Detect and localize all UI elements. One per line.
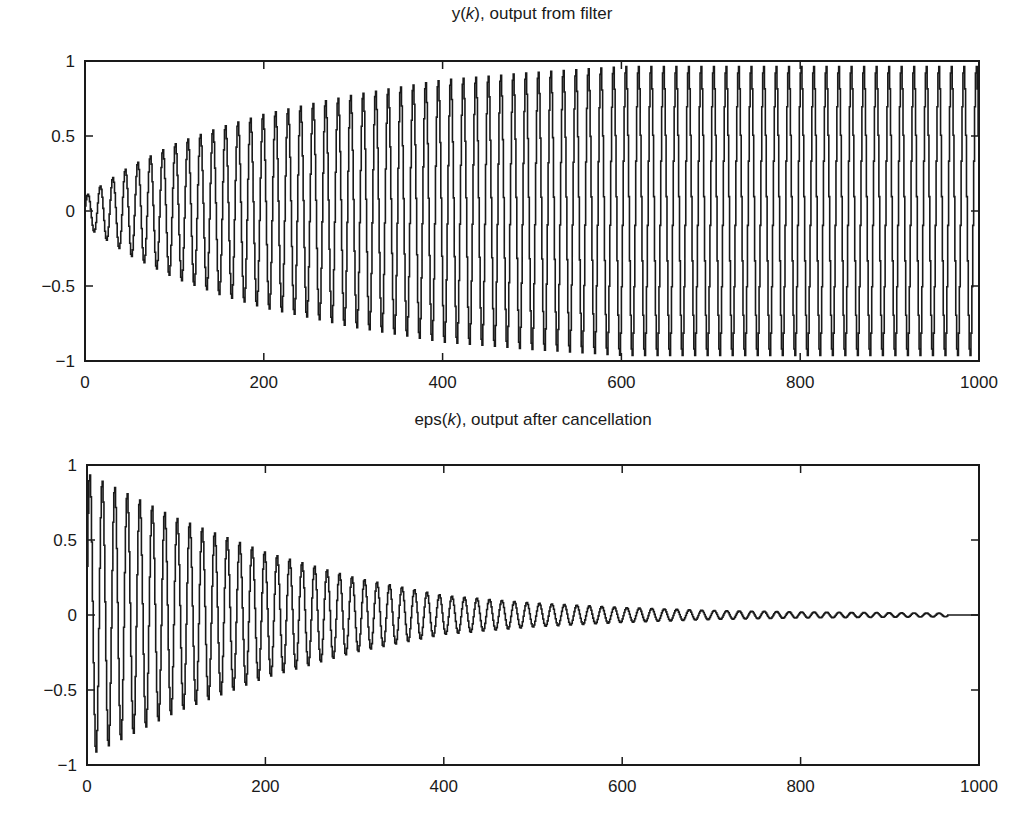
y-tick-label: 0.5 (51, 127, 75, 146)
y-tick-label: 1 (66, 52, 75, 71)
x-tick-label: 1000 (960, 373, 998, 392)
axes-box (87, 465, 979, 765)
x-tick-label: 1000 (960, 777, 998, 796)
y-tick-label: 0.5 (53, 531, 77, 550)
x-tick-label: 0 (80, 373, 89, 392)
caption-strip (0, 808, 1029, 832)
x-tick-label: 200 (250, 373, 278, 392)
x-tick-label: 800 (786, 373, 814, 392)
x-tick-label: 600 (607, 373, 635, 392)
plot-output-from-filter: 0200400600800100010.50−0.5−1 (41, 52, 997, 392)
figure: y(k), output from filter eps(k), output … (0, 0, 1029, 832)
signal-line (85, 67, 979, 356)
axes-box (85, 61, 979, 361)
y-tick-label: 0 (68, 606, 77, 625)
plots-canvas: 0200400600800100010.50−0.5−1 02004006008… (0, 0, 1029, 832)
y-tick-label: −0.5 (43, 681, 77, 700)
y-tick-label: 1 (68, 456, 77, 475)
y-tick-label: −0.5 (41, 277, 75, 296)
x-tick-label: 400 (430, 777, 458, 796)
signal-line (87, 475, 979, 752)
x-tick-label: 600 (608, 777, 636, 796)
plot-output-after-cancellation: 0200400600800100010.50−0.5−1 (43, 456, 997, 796)
x-tick-label: 800 (786, 777, 814, 796)
x-tick-label: 0 (82, 777, 91, 796)
y-tick-label: −1 (58, 756, 77, 775)
y-tick-label: 0 (66, 202, 75, 221)
y-tick-label: −1 (56, 352, 75, 371)
x-tick-label: 400 (428, 373, 456, 392)
x-tick-label: 200 (251, 777, 279, 796)
